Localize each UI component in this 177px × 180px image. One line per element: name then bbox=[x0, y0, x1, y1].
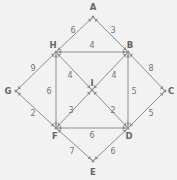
arrow-head-icon bbox=[126, 54, 130, 57]
arrow-head-icon bbox=[58, 126, 61, 130]
graph-node-dot-h bbox=[55, 51, 58, 54]
graph-node-dot-g bbox=[15, 90, 18, 93]
edge-weight-f-e: 7 bbox=[69, 147, 74, 156]
edge-weight-c-d: 5 bbox=[148, 109, 153, 118]
arrow-head-icon bbox=[58, 50, 61, 54]
arrow-head-icon bbox=[54, 54, 58, 57]
edge-weight-f-i: 3 bbox=[68, 106, 73, 115]
arrow-head-icon bbox=[123, 50, 126, 54]
arrow-head-icon bbox=[123, 126, 126, 130]
graph-edge-h-i bbox=[56, 52, 92, 90]
arrow-head-icon bbox=[54, 123, 58, 126]
graph-edge-g-f bbox=[16, 91, 56, 128]
graph-edge-f-i bbox=[56, 90, 92, 128]
edge-weight-g-h: 9 bbox=[30, 64, 35, 73]
graph-node-label-e: E bbox=[90, 168, 96, 177]
edge-weight-e-d: 6 bbox=[110, 147, 115, 156]
graph-edge-i-b bbox=[92, 52, 128, 90]
graph-edge-e-d bbox=[93, 128, 128, 161]
graph-node-label-b: B bbox=[127, 41, 133, 50]
graph-node-dot-a bbox=[92, 16, 95, 19]
edge-weight-h-f: 6 bbox=[46, 87, 51, 96]
graph-node-label-d: D bbox=[125, 132, 132, 141]
graph-node-dot-d bbox=[127, 127, 130, 130]
edge-weight-g-f: 2 bbox=[30, 109, 35, 118]
graph-edge-g-h bbox=[16, 52, 56, 91]
graph-edge-a-h bbox=[56, 17, 93, 52]
edge-weight-b-c: 8 bbox=[148, 64, 153, 73]
edge-weight-f-d: 6 bbox=[89, 131, 94, 140]
graph-node-label-g: G bbox=[5, 87, 12, 96]
edge-weight-i-b: 4 bbox=[111, 71, 116, 80]
graph-node-dot-f bbox=[55, 127, 58, 130]
graph-node-label-h: H bbox=[49, 41, 56, 50]
graph-node-dot-i bbox=[91, 89, 94, 92]
graph-node-dot-c bbox=[164, 90, 167, 93]
graph-node-dot-b bbox=[127, 51, 130, 54]
graph-node-label-i: I bbox=[90, 79, 93, 88]
edge-weight-a-h: 6 bbox=[70, 26, 75, 35]
graph-edge-c-d bbox=[128, 91, 165, 128]
graph-edges-canvas bbox=[0, 0, 177, 180]
graph-edge-a-b bbox=[93, 17, 128, 52]
edge-weight-b-d: 5 bbox=[131, 87, 136, 96]
graph-node-label-f: F bbox=[52, 132, 58, 141]
graph-node-label-a: A bbox=[90, 3, 97, 12]
edge-weight-a-b: 3 bbox=[110, 26, 115, 35]
graph-node-label-c: C bbox=[168, 87, 174, 96]
edge-weight-i-d: 2 bbox=[110, 106, 115, 115]
graph-edge-f-e bbox=[56, 128, 93, 161]
edge-weight-h-i: 4 bbox=[67, 71, 72, 80]
edge-weight-h-b: 4 bbox=[89, 41, 94, 50]
weighted-graph-diagram: 6349865256764432 ABCDEFGHI bbox=[0, 0, 177, 180]
arrow-head-icon bbox=[126, 123, 130, 126]
graph-node-dot-e bbox=[92, 160, 95, 163]
graph-edge-b-c bbox=[128, 52, 165, 91]
